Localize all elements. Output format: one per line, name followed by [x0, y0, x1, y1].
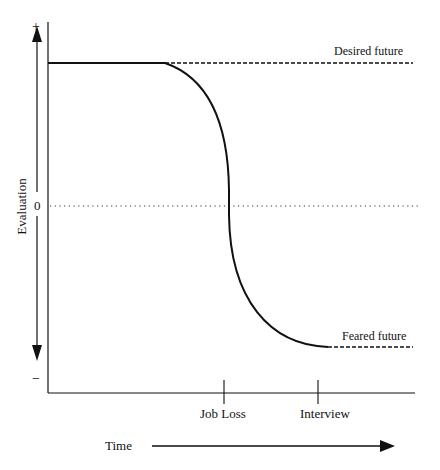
tick-label-interview: Interview: [300, 407, 350, 420]
y-negative-sign: −: [32, 372, 40, 386]
tick-label-job-loss: Job Loss: [200, 407, 246, 420]
arrow-right-icon: [380, 440, 395, 452]
evaluation-arrow: [32, 26, 42, 361]
desired-future-label: Desired future: [334, 45, 403, 57]
time-arrow: [152, 440, 395, 452]
y-zero-label: 0: [34, 199, 41, 212]
feared-future-label: Feared future: [342, 330, 406, 342]
y-axis-label: Evaluation: [15, 177, 28, 237]
diagram-canvas: [0, 0, 440, 470]
evaluation-curve: [48, 63, 328, 347]
y-positive-sign: +: [32, 20, 40, 34]
arrow-down-icon: [32, 345, 42, 361]
x-axis-label: Time: [105, 439, 132, 452]
